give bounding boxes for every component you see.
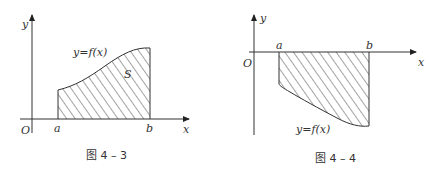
figure-caption: 图 4 – 4 [315, 152, 356, 165]
y-axis-label: y [259, 12, 267, 25]
figure-caption: 图 4 – 3 [86, 149, 127, 162]
y-axis-label: y [21, 18, 29, 31]
x-axis-label: x [183, 123, 190, 136]
origin-label: O [243, 57, 252, 70]
x-axis-label: x [418, 56, 425, 69]
area-label: S [124, 68, 132, 81]
origin-label: O [21, 124, 30, 137]
curve-label: y=f(x) [72, 46, 107, 59]
a-label: a [54, 122, 61, 135]
b-label: b [146, 122, 153, 135]
diagram-canvas: y x O a b y=f(x) S 图 4 – 3 y x O a b y=f… [0, 0, 441, 174]
figure-4-3: y x O a b y=f(x) S 图 4 – 3 [20, 15, 190, 162]
b-label: b [366, 39, 373, 52]
a-label: a [276, 39, 283, 52]
curve-label: y=f(x) [295, 123, 330, 136]
figure-4-4: y x O a b y=f(x) 图 4 – 4 [243, 12, 425, 165]
shaded-area [279, 52, 369, 126]
